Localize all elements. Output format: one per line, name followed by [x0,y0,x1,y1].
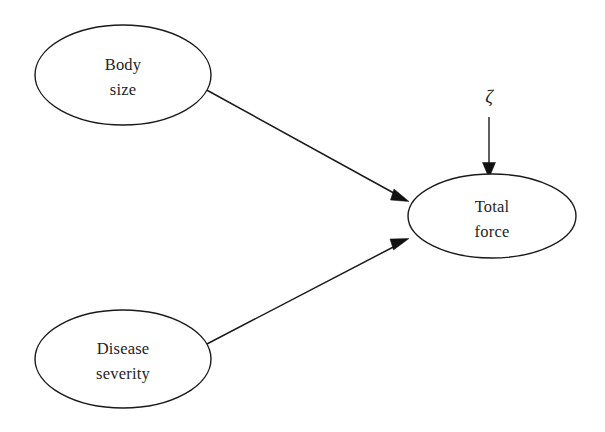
edge-body-size-to-total-force-arrowhead [391,189,410,202]
node-body-size[interactable]: Body size [35,25,211,125]
node-total-force-ellipse[interactable] [408,174,576,258]
node-total-force-label-line1: Total [475,197,510,216]
node-disease-severity-label-line1: Disease [97,339,150,358]
edge-disturbance-to-total-force [483,117,496,178]
path-diagram-svg: Body size Disease severity Total force ζ [0,0,605,432]
path-diagram-canvas: Body size Disease severity Total force ζ [0,0,605,432]
node-disease-severity[interactable]: Disease severity [35,310,211,408]
node-total-force[interactable]: Total force [408,174,576,258]
node-disease-severity-label-line2: severity [96,364,150,383]
edge-disease-severity-to-total-force [205,239,409,346]
node-disease-severity-ellipse[interactable] [35,310,211,408]
node-total-force-label-line2: force [475,222,510,241]
edge-disease-severity-to-total-force-line [205,243,401,345]
edge-disease-severity-to-total-force-arrowhead [390,239,409,251]
edge-body-size-to-total-force [203,88,409,202]
disturbance-zeta-label: ζ [485,86,494,107]
node-body-size-label-line1: Body [105,55,142,74]
node-body-size-label-line2: size [110,80,136,99]
edge-body-size-to-total-force-line [203,88,401,197]
node-body-size-ellipse[interactable] [35,25,211,125]
